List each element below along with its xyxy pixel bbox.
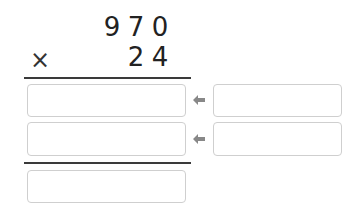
partial-product-2-input[interactable] [27, 122, 186, 156]
multiplicand-digit-tens: 7 [126, 14, 146, 40]
multiplicand-digit-hundreds: 9 [102, 14, 122, 40]
multiplier-digit-ones: 4 [150, 44, 170, 70]
multiplicand-digit-ones: 0 [150, 14, 170, 40]
arrow-left-icon [193, 95, 205, 105]
divider-line-bottom [24, 162, 191, 164]
final-product-input[interactable] [27, 170, 186, 203]
partial-product-2-helper-input[interactable] [213, 122, 342, 156]
divider-line-top [24, 77, 191, 79]
arrow-left-icon [193, 134, 205, 144]
partial-product-1-helper-input[interactable] [213, 84, 342, 117]
multiply-operator: × [30, 48, 50, 72]
multiplier-digit-tens: 2 [126, 44, 146, 70]
partial-product-1-input[interactable] [27, 84, 186, 117]
